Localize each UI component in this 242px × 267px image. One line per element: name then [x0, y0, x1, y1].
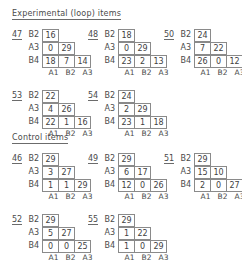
matrix-cells: 029 — [118, 42, 150, 54]
matrix-row: B42027 — [179, 178, 242, 191]
matrix-id-53: 53 — [12, 91, 22, 101]
matrix-cells: 26012 — [194, 55, 242, 67]
matrix-cell: 29 — [194, 153, 211, 166]
row-label-A3: A3 — [27, 102, 42, 115]
matrix-cells: 16 — [42, 29, 58, 41]
matrix-cell: 1 — [134, 116, 151, 129]
matrix-row: B412026 — [103, 178, 172, 191]
matrix-row: B222 — [27, 89, 96, 102]
matrix-id-52: 52 — [12, 215, 22, 225]
row-label-A3: A3 — [27, 41, 42, 54]
matrix-row: A3426 — [27, 102, 96, 115]
row-label-A3: A3 — [103, 41, 118, 54]
column-labels: A1B2A3 — [121, 253, 172, 262]
matrix-cells: 23213 — [118, 55, 166, 67]
row-label-B4: B4 — [103, 178, 118, 191]
row-label-A3: A3 — [179, 41, 194, 54]
matrix-id-49: 49 — [88, 154, 98, 164]
row-label-B2: B2 — [103, 89, 118, 102]
matrix-cell: 7 — [194, 42, 211, 55]
matrix-grid: B218A3029B423213A1B2A3 — [103, 28, 172, 77]
matrix-row: A3617 — [103, 165, 172, 178]
matrix-cell: 29 — [42, 153, 59, 166]
matrix-cell: 5 — [42, 227, 59, 240]
matrix-cells: 22116 — [42, 116, 90, 128]
matrix-cell: 0 — [118, 42, 135, 55]
matrix-cell: 22 — [42, 90, 59, 103]
matrix-cell: 0 — [134, 240, 151, 253]
matrix-cell: 2 — [118, 103, 135, 116]
matrix-cells: 18 — [118, 29, 134, 41]
column-label-A1: A1 — [121, 253, 138, 262]
row-label-B2: B2 — [103, 213, 118, 226]
matrix-cell: 24 — [118, 90, 135, 103]
column-label-B2: B2 — [138, 68, 155, 77]
column-labels: A1B2A3 — [197, 68, 242, 77]
row-label-B2: B2 — [103, 152, 118, 165]
matrix-cell: 0 — [58, 240, 75, 253]
matrix-cell: 23 — [118, 116, 135, 129]
column-label-B2: B2 — [138, 253, 155, 262]
matrix-cells: 18714 — [42, 55, 90, 67]
row-label-B4: B4 — [27, 54, 42, 67]
column-labels: A1B2A3 — [45, 129, 96, 138]
matrix-cell: 3 — [42, 166, 59, 179]
matrix-cell: 1 — [42, 179, 59, 192]
matrix-row: B41129 — [27, 178, 96, 191]
matrix-cell: 29 — [58, 42, 75, 55]
column-labels: A1B2A3 — [45, 68, 96, 77]
matrix-cell: 26 — [194, 55, 211, 68]
column-label-A3: A3 — [79, 129, 96, 138]
matrix-cell: 16 — [42, 29, 59, 42]
column-label-B2: B2 — [62, 68, 79, 77]
matrix-cells: 0025 — [42, 240, 90, 252]
row-label-B4: B4 — [103, 54, 118, 67]
matrix-cells: 2027 — [194, 179, 242, 191]
row-label-B2: B2 — [179, 28, 194, 41]
matrix-cell: 13 — [150, 55, 167, 68]
row-label-B2: B2 — [179, 152, 194, 165]
matrix-cell: 2 — [194, 179, 211, 192]
row-label-A3: A3 — [27, 226, 42, 239]
row-label-B4: B4 — [27, 115, 42, 128]
matrix-row: B229 — [27, 213, 96, 226]
matrix-row: B418714 — [27, 54, 96, 67]
row-label-A3: A3 — [103, 165, 118, 178]
matrix-grid: B229A31510B42027A1B2A3 — [179, 152, 242, 201]
column-label-B2: B2 — [62, 129, 79, 138]
matrix-cell: 26 — [58, 103, 75, 116]
matrix-row: B218 — [103, 28, 172, 41]
row-label-B4: B4 — [179, 54, 194, 67]
matrix-cell: 23 — [118, 55, 135, 68]
row-label-B2: B2 — [27, 213, 42, 226]
matrix-cell: 0 — [210, 55, 227, 68]
matrix-cell: 18 — [42, 55, 59, 68]
matrix-cell: 12 — [118, 179, 135, 192]
matrix-cells: 29 — [42, 153, 58, 165]
matrix-cell: 29 — [42, 214, 59, 227]
matrix-cell: 24 — [194, 29, 211, 42]
matrix-cell: 1 — [118, 227, 135, 240]
matrix-row: A3029 — [103, 41, 172, 54]
matrix-cells: 29 — [118, 153, 134, 165]
matrix-cell: 29 — [150, 240, 167, 253]
matrix-row: B41029 — [103, 239, 172, 252]
matrix-cell: 1 — [118, 240, 135, 253]
matrix-row: A3527 — [27, 226, 96, 239]
column-labels: A1B2A3 — [121, 129, 172, 138]
row-label-B4: B4 — [27, 239, 42, 252]
column-label-B2: B2 — [138, 129, 155, 138]
matrix-cell: 18 — [150, 116, 167, 129]
matrix-cell: 1 — [58, 179, 75, 192]
column-label-A1: A1 — [121, 192, 138, 201]
matrix-cells: 24 — [194, 29, 210, 41]
matrix-cell: 16 — [74, 116, 91, 129]
matrix-row: B224 — [103, 89, 172, 102]
column-labels: A1B2A3 — [197, 192, 242, 201]
column-label-B2: B2 — [62, 253, 79, 262]
matrix-cell: 17 — [134, 166, 151, 179]
section-title-experimental: Experimental (loop) items — [12, 9, 121, 20]
row-label-A3: A3 — [103, 102, 118, 115]
matrix-row: B229 — [179, 152, 242, 165]
column-label-A3: A3 — [155, 253, 172, 262]
